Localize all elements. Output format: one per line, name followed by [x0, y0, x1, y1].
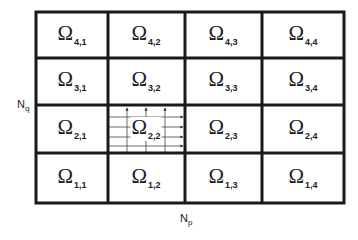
cell-subscript: 2,2: [148, 131, 161, 141]
omega-symbol: Ω: [131, 21, 147, 45]
cell-label-1-3: Ω1,3: [208, 166, 237, 190]
cell-label-3-2: Ω3,2: [131, 69, 160, 93]
omega-symbol: Ω: [208, 164, 224, 188]
cell-subscript: 4,3: [225, 37, 238, 47]
cell-label-2-1: Ω2,1: [57, 117, 86, 141]
cell-label-1-1: Ω1,1: [57, 166, 86, 190]
axis-label-np-sub: p: [188, 218, 192, 227]
omega-symbol: Ω: [288, 115, 304, 139]
cell-subscript: 4,4: [305, 37, 318, 47]
cell-label-1-2: Ω1,2: [131, 166, 160, 190]
cell-label-4-2: Ω4,2: [131, 23, 160, 47]
omega-symbol: Ω: [57, 164, 73, 188]
axis-label-np: Np: [180, 212, 192, 227]
cell-subscript: 4,2: [148, 37, 161, 47]
cell-label-3-1: Ω3,1: [57, 69, 86, 93]
axis-label-nq: Nq: [17, 98, 29, 113]
cell-subscript: 1,2: [148, 180, 161, 190]
omega-symbol: Ω: [208, 115, 224, 139]
omega-symbol: Ω: [288, 67, 304, 91]
axis-label-np-main: N: [180, 212, 188, 224]
omega-symbol: Ω: [131, 164, 147, 188]
cell-label-1-4: Ω1,4: [288, 166, 317, 190]
cell-subscript: 3,3: [225, 83, 238, 93]
omega-symbol: Ω: [57, 67, 73, 91]
cell-label-3-4: Ω3,4: [288, 69, 317, 93]
omega-symbol: Ω: [208, 21, 224, 45]
cell-subscript: 3,1: [74, 83, 87, 93]
axis-label-nq-sub: q: [25, 104, 29, 113]
omega-symbol: Ω: [131, 115, 147, 139]
cell-subscript: 2,4: [305, 131, 318, 141]
cell-subscript: 1,3: [225, 180, 238, 190]
cell-subscript: 2,1: [74, 131, 87, 141]
omega-symbol: Ω: [288, 21, 304, 45]
cell-label-2-3: Ω2,3: [208, 117, 237, 141]
omega-symbol: Ω: [131, 67, 147, 91]
cell-subscript: 4,1: [74, 37, 87, 47]
axis-label-nq-main: N: [17, 98, 25, 110]
cell-subscript: 3,4: [305, 83, 318, 93]
omega-symbol: Ω: [57, 21, 73, 45]
cell-subscript: 1,1: [74, 180, 87, 190]
cell-subscript: 2,3: [225, 131, 238, 141]
cell-label-2-4: Ω2,4: [288, 117, 317, 141]
cell-label-4-3: Ω4,3: [208, 23, 237, 47]
omega-symbol: Ω: [208, 67, 224, 91]
cell-label-4-4: Ω4,4: [288, 23, 317, 47]
omega-symbol: Ω: [57, 115, 73, 139]
omega-symbol: Ω: [288, 164, 304, 188]
cell-label-4-1: Ω4,1: [57, 23, 86, 47]
cell-label-3-3: Ω3,3: [208, 69, 237, 93]
cell-subscript: 3,2: [148, 83, 161, 93]
cell-subscript: 1,4: [305, 180, 318, 190]
cell-label-2-2: Ω2,2: [130, 117, 161, 141]
